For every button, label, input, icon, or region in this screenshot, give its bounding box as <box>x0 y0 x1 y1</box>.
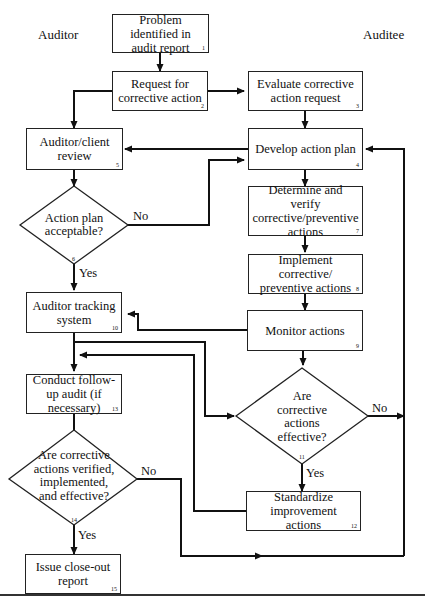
step-number: 13 <box>112 406 118 412</box>
step-number: 9 <box>356 343 359 349</box>
bottom-divider <box>0 594 425 596</box>
decision-6-number: 6 <box>72 256 75 262</box>
step-label: Monitor actions <box>265 324 345 338</box>
step-10-auditor-tracking-system: Auditor tracking system 10 <box>26 292 122 333</box>
decision-6-action-plan-acceptable: Action plan acceptable? <box>40 211 108 239</box>
step-label: Evaluate corrective action request <box>253 77 358 105</box>
step-4-develop-action-plan: Develop action plan 4 <box>248 128 363 170</box>
edge-label-11-no: No <box>372 401 387 416</box>
step-label: Determine and verify corrective/preventi… <box>252 183 358 239</box>
edge-label-14-yes: Yes <box>78 528 96 543</box>
step-label: Develop action plan <box>255 142 356 156</box>
step-1-problem-identified: Problem identified in audit report 1 <box>112 14 209 53</box>
step-number: 1 <box>202 45 205 51</box>
step-number: 4 <box>356 162 359 168</box>
step-5-auditor-client-review: Auditor/client review 5 <box>26 128 123 170</box>
edge-9-10 <box>128 314 248 330</box>
step-label: Request for corrective action <box>117 77 203 105</box>
decision-11-number: 11 <box>299 454 305 460</box>
step-label: Issue close-out report <box>30 560 116 588</box>
step-label: Implement corrective/ preventive actions <box>253 253 358 295</box>
step-7-determine-verify-actions: Determine and verify corrective/preventi… <box>248 186 363 236</box>
lane-label-auditee: Auditee <box>363 27 404 43</box>
step-number: 7 <box>356 228 359 234</box>
lane-label-auditor: Auditor <box>38 27 78 43</box>
step-number: 8 <box>356 286 359 292</box>
step-number: 3 <box>356 103 359 109</box>
step-9-monitor-actions: Monitor actions 9 <box>247 310 363 351</box>
step-label: Problem identified in audit report <box>117 13 204 55</box>
step-label: Conduct follow-up audit (if necessary) <box>31 373 117 415</box>
decision-14-verified-implemented-effective: Are corrective actions verified, impleme… <box>32 444 116 508</box>
step-12-standardize-improvement: Standardize improvement actions 12 <box>246 491 361 531</box>
step-13-conduct-follow-up-audit: Conduct follow-up audit (if necessary) 1… <box>26 374 122 414</box>
step-2-request-corrective-action: Request for corrective action 2 <box>112 71 208 111</box>
step-15-issue-close-out-report: Issue close-out report 15 <box>25 554 121 594</box>
decision-11-actions-effective: Are corrective actions effective? <box>272 390 332 444</box>
edge-label-6-no: No <box>133 209 148 224</box>
step-3-evaluate-request: Evaluate corrective action request 3 <box>248 71 363 111</box>
edge-2-5 <box>74 91 112 128</box>
edge-loop-4 <box>366 149 404 556</box>
step-label: Auditor tracking system <box>31 299 117 327</box>
edge-label-11-yes: Yes <box>306 466 324 481</box>
step-number: 5 <box>116 162 119 168</box>
step-number: 12 <box>351 523 357 529</box>
step-label: Auditor/client review <box>31 135 118 163</box>
step-number: 2 <box>201 103 204 109</box>
step-label: Standardize improvement actions <box>251 490 356 532</box>
step-8-implement-actions: Implement corrective/ preventive actions… <box>248 254 363 294</box>
edge-label-6-yes: Yes <box>79 266 97 281</box>
step-number: 15 <box>111 586 117 592</box>
decision-14-number: 14 <box>71 517 77 523</box>
edge-label-14-no: No <box>141 464 156 479</box>
step-number: 10 <box>112 325 118 331</box>
